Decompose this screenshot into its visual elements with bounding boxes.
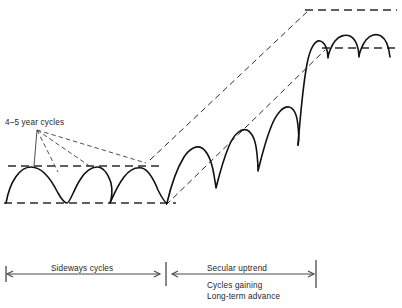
price-curve-uptrend [167,107,299,203]
span-label-sideways: Sideways cycles [51,264,113,273]
price-curve-sideways [6,167,167,203]
cycles-callout-label: 4–5 year cycles [5,118,64,127]
note-cycles-gaining: Cycles gaining [207,281,263,290]
span-label-secular: Secular uptrend [207,264,267,273]
secular-uptrend-channel [150,10,325,205]
sideways-channel [4,166,176,203]
uptrend-upper-channel-line [150,10,309,160]
leader-line-3 [37,130,146,163]
top-flat-channel [305,10,397,48]
phase-span-axis: Sideways cycles Secular uptrend Cycles g… [6,260,316,301]
cycle-schematic-figure: 4–5 year cycles Sideways cycles Secu [0,0,402,308]
price-curve-top-flat [298,35,390,145]
cycles-callout: 4–5 year cycles [5,118,146,172]
diagram-canvas: 4–5 year cycles Sideways cycles Secu [0,0,402,308]
leader-line-1 [34,130,37,166]
note-long-term-advance: Long-term advance [207,292,280,301]
uptrend-lower-channel-line [166,50,325,205]
leader-line-2 [37,130,91,167]
